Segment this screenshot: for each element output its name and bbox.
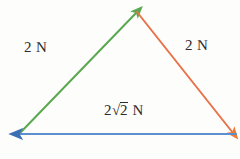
left-vector-label: 2 N bbox=[24, 41, 47, 56]
bottom-vector-label: 2√2 N bbox=[104, 104, 144, 119]
force-triangle-diagram: 2 N 2 N 2√2 N bbox=[0, 0, 240, 159]
vector-triangle-svg bbox=[0, 0, 240, 159]
bottom-vector-coefficient: 2 bbox=[104, 103, 112, 119]
bottom-vector-unit: N bbox=[133, 103, 144, 119]
right-vector-label-text: 2 N bbox=[185, 38, 208, 54]
radicand-value: 2 bbox=[120, 102, 129, 119]
right-vector-label: 2 N bbox=[185, 39, 208, 54]
square-root-icon: √2 bbox=[112, 104, 129, 119]
right-orange-vector bbox=[137, 12, 233, 133]
left-vector-label-text: 2 N bbox=[24, 40, 47, 56]
